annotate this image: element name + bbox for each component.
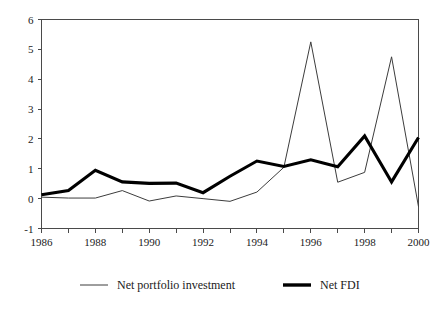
y-axis-tick-label: 1 <box>28 163 34 175</box>
x-axis-tick-label: 1996 <box>300 236 323 248</box>
legend-item[interactable]: Net portfolio investment <box>80 278 236 292</box>
line-chart: 6543210-1 198619881990199219941996199820… <box>0 0 445 310</box>
chart-container: 6543210-1 198619881990199219941996199820… <box>0 0 445 310</box>
x-axis-tick-label: 1986 <box>31 236 54 248</box>
x-axis-tick-label: 2000 <box>408 236 431 248</box>
y-axis-tick-label: 6 <box>28 14 34 26</box>
series-line-net-fdi <box>42 136 419 195</box>
series-line-net-portfolio-investment <box>42 42 419 207</box>
x-axis-tick-label: 1992 <box>192 236 214 248</box>
x-axis-tick-label: 1988 <box>84 236 107 248</box>
data-series-layer <box>42 42 419 207</box>
x-axis-tick-label: 1994 <box>246 236 269 248</box>
x-axis-tick-label: 1990 <box>138 236 161 248</box>
x-axis-ticks <box>42 229 419 233</box>
y-axis-tick-label: 0 <box>28 193 34 205</box>
legend-item-label: Net FDI <box>320 278 360 292</box>
y-axis-tick-label: 4 <box>28 73 34 85</box>
legend-item-label: Net portfolio investment <box>117 278 236 292</box>
y-axis-tick-labels: 6543210-1 <box>24 14 34 235</box>
x-axis-tick-labels: 19861988199019921994199619982000 <box>31 236 431 248</box>
y-axis-tick-label: 5 <box>28 43 34 55</box>
legend-item[interactable]: Net FDI <box>283 278 360 292</box>
chart-legend: Net portfolio investmentNet FDI <box>80 278 360 292</box>
y-axis-ticks <box>38 20 42 229</box>
y-axis-tick-label: 3 <box>28 103 34 115</box>
y-axis-tick-label: -1 <box>24 223 33 235</box>
y-axis-tick-label: 2 <box>28 133 34 145</box>
x-axis-tick-label: 1998 <box>354 236 377 248</box>
